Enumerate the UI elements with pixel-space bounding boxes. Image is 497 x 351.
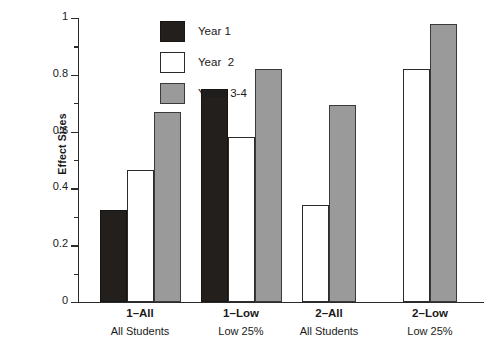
bar-year1-1-all (100, 210, 127, 302)
legend-item-year2: Year 2 (160, 51, 247, 73)
bar-year1-1-low (201, 89, 228, 302)
x-label-group-4-secondary: Low 25% (355, 324, 497, 339)
black-square-icon (160, 21, 185, 42)
y-tick-label-0-2: 0.2 (53, 237, 68, 249)
bar-years34-1-all (154, 112, 181, 302)
bar-year2-2-all (302, 205, 329, 302)
legend-label-years34: Years 3-4 (198, 87, 247, 99)
white-square-icon (160, 52, 185, 73)
bar-year2-1-all (127, 170, 154, 302)
y-tick-label-1: 1 (62, 10, 68, 22)
x-label-group-4: 2–Low Low 25% (355, 306, 497, 339)
y-tick-label-0-4: 0.4 (53, 180, 68, 192)
y-tick-label-0-8: 0.8 (53, 67, 68, 79)
bar-years34-2-low (430, 24, 457, 302)
bar-years34-1-low (255, 69, 282, 302)
x-axis-line (78, 302, 484, 303)
plot-area: 0 0.2 0.4 0.6 0.8 1 (78, 18, 484, 302)
legend-label-year2: Year 2 (198, 56, 234, 68)
legend-label-year1: Year 1 (198, 25, 231, 37)
chart-legend: Year 1 Year 2 Years 3-4 (160, 20, 247, 104)
bars-layer (78, 18, 484, 302)
bar-year2-2-low (403, 69, 430, 302)
gray-square-icon (160, 83, 185, 104)
bar-chart-figure: Effect Sizes 0 0.2 0.4 0.6 0.8 1 (0, 0, 497, 351)
legend-item-years34: Years 3-4 (160, 82, 247, 104)
bar-years34-2-all (329, 105, 356, 302)
x-label-group-4-primary: 2–Low (355, 306, 497, 321)
legend-item-year1: Year 1 (160, 20, 247, 42)
y-tick-label-0-6: 0.6 (53, 124, 68, 136)
bar-year2-1-low (228, 137, 255, 302)
y-tick-label-0: 0 (62, 294, 68, 306)
x-axis-category-labels: 1–All All Students 1–Low Low 25% 2–All A… (78, 306, 484, 350)
